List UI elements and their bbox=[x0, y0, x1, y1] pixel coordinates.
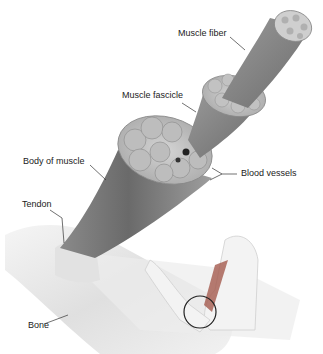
label-blood-vessels: Blood vessels bbox=[241, 169, 297, 178]
label-muscle-fascicle: Muscle fascicle bbox=[122, 91, 183, 100]
label-body-of-muscle: Body of muscle bbox=[23, 157, 85, 166]
label-tendon: Tendon bbox=[22, 200, 52, 209]
label-bone: Bone bbox=[28, 321, 49, 330]
muscle-fiber-shape bbox=[222, 6, 316, 108]
blood-vessel-dot bbox=[183, 149, 190, 156]
label-muscle-fiber: Muscle fiber bbox=[178, 29, 227, 38]
